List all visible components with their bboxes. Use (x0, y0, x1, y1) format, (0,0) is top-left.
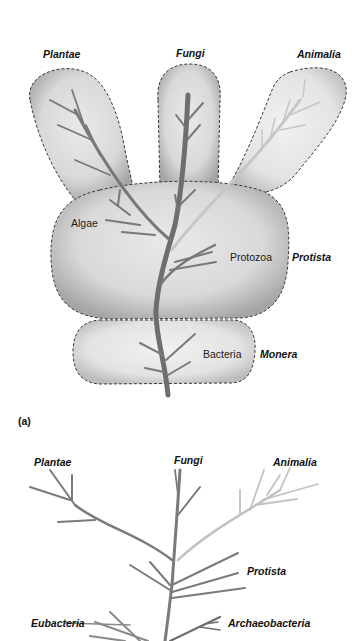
label-fungi-a: Fungi (176, 48, 205, 59)
panel-label-a: (a) (18, 416, 31, 427)
label-monera: Monera (260, 349, 297, 360)
label-protozoa: Protozoa (230, 252, 272, 263)
label-plantae-a: Plantae (43, 49, 80, 60)
label-eubacteria: Eubacteria (31, 618, 85, 629)
label-algae: Algae (71, 218, 98, 229)
label-protista-a: Protista (292, 252, 331, 263)
label-archaeobacteria: Archaeobacteria (228, 618, 310, 629)
label-animalia-b: Animalia (273, 457, 317, 468)
blob-animalia (225, 68, 346, 194)
phylogeny-diagram (0, 0, 362, 641)
label-protista-b: Protista (247, 566, 286, 577)
label-plantae-b: Plantae (34, 457, 71, 468)
label-animalia-a: Animalia (297, 49, 341, 60)
blob-fungi (158, 64, 220, 190)
tree-b (30, 468, 318, 641)
label-fungi-b: Fungi (174, 455, 203, 466)
label-bacteria: Bacteria (203, 349, 242, 360)
